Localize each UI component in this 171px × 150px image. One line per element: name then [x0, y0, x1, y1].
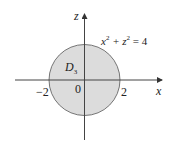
tick-label-2: 2: [121, 86, 127, 98]
x-axis-label: x: [156, 85, 161, 97]
axes-and-disk: [0, 0, 171, 150]
disk-diagram: z x x2 + z2 = 4 D3 0 −2 2: [0, 0, 171, 150]
equation-label: x2 + z2 = 4: [101, 35, 147, 47]
tick-label-neg2: −2: [36, 86, 49, 98]
region-label: D3: [65, 61, 77, 76]
z-axis-label: z: [74, 10, 79, 22]
origin-label: 0: [75, 83, 81, 95]
